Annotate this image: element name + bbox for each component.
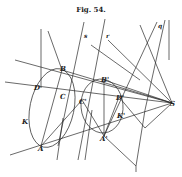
label-b: B xyxy=(59,64,66,73)
label-d: D xyxy=(33,83,41,92)
cross-line-top xyxy=(91,45,140,80)
line-b-to-s xyxy=(15,60,172,103)
construction-lines xyxy=(5,19,172,172)
label-d-prime: D' xyxy=(115,93,124,102)
label-line-s: s xyxy=(84,32,88,39)
label-a-prime: A' xyxy=(99,134,108,143)
figure-title: Fig. 54. xyxy=(0,5,182,14)
diagram-canvas: B D C C' B' D' K' K A A' S s r q xyxy=(0,0,182,177)
geometry-figure: Fig. 54. xyxy=(0,0,182,177)
line-a-to-s xyxy=(10,103,172,155)
label-s: S xyxy=(170,99,175,108)
label-c-prime: C' xyxy=(79,97,87,106)
line-top2-to-s xyxy=(140,25,172,103)
line-q xyxy=(104,22,157,136)
line-bp-to-s xyxy=(104,80,172,103)
label-line-q: q xyxy=(158,22,162,30)
label-k: K xyxy=(21,117,29,126)
line-ap-to-bottom xyxy=(104,136,136,166)
line-128-to-s xyxy=(145,103,172,128)
label-b-prime: B' xyxy=(100,75,109,84)
label-k-prime: K' xyxy=(116,111,125,120)
left-conic xyxy=(22,64,82,151)
label-c: C xyxy=(60,92,66,101)
label-a: A xyxy=(37,144,44,153)
line-d-to-s xyxy=(5,82,172,103)
label-line-r: r xyxy=(106,32,110,39)
